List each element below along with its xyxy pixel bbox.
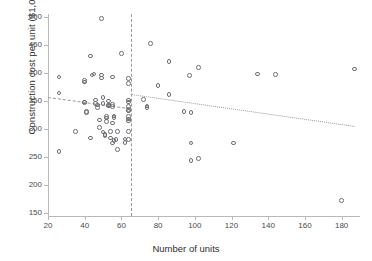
x-tick — [85, 216, 86, 220]
data-point — [126, 129, 131, 134]
data-point — [231, 141, 236, 146]
data-point — [189, 158, 194, 163]
y-tick-label: 500 — [18, 13, 42, 21]
data-point — [148, 41, 153, 46]
plot-area: 150200250300350400450500 204060801001201… — [48, 14, 360, 218]
x-tick-label: 160 — [292, 222, 318, 230]
y-tick — [44, 129, 48, 130]
data-point — [92, 72, 97, 77]
data-point — [99, 16, 104, 21]
y-tick — [44, 17, 48, 18]
trend-left — [48, 97, 131, 109]
data-point — [196, 65, 201, 70]
x-tick — [121, 216, 122, 220]
x-tick-label: 180 — [329, 222, 355, 230]
data-point — [73, 129, 78, 134]
data-point — [339, 198, 344, 203]
data-point — [82, 100, 87, 105]
trend-right — [130, 94, 354, 127]
x-axis-line — [48, 216, 360, 217]
data-point — [84, 110, 89, 115]
x-tick-label: 120 — [219, 222, 245, 230]
data-point — [196, 156, 201, 161]
x-tick — [268, 216, 269, 220]
data-point — [119, 51, 124, 56]
data-point — [97, 125, 102, 130]
data-point — [110, 121, 115, 126]
y-tick-label: 400 — [18, 69, 42, 77]
y-tick — [44, 213, 48, 214]
data-point — [103, 133, 108, 138]
y-tick-label: 200 — [18, 181, 42, 189]
data-point — [167, 59, 172, 64]
y-tick — [44, 73, 48, 74]
chart-figure: Construction cost per unit ($1,000s) 150… — [0, 0, 372, 261]
y-tick — [44, 45, 48, 46]
data-point — [108, 129, 113, 134]
data-point — [273, 72, 278, 77]
x-tick-label: 80 — [145, 222, 171, 230]
data-point — [95, 105, 100, 110]
x-tick — [158, 216, 159, 220]
data-point — [189, 141, 194, 146]
data-point — [82, 80, 87, 85]
data-point — [167, 92, 172, 97]
y-tick — [44, 157, 48, 158]
data-point — [57, 149, 62, 154]
y-axis-line — [48, 14, 49, 216]
x-tick-label: 40 — [72, 222, 98, 230]
y-tick-label: 250 — [18, 153, 42, 161]
data-point — [104, 119, 109, 124]
data-point — [115, 129, 120, 134]
data-point — [88, 136, 93, 141]
x-tick — [342, 216, 343, 220]
x-tick-label: 140 — [255, 222, 281, 230]
x-tick-label: 20 — [35, 222, 61, 230]
data-point — [187, 73, 192, 78]
data-point — [189, 110, 194, 115]
data-point — [126, 76, 131, 81]
data-point — [145, 105, 150, 110]
data-point — [255, 72, 260, 77]
data-point — [97, 118, 102, 123]
x-tick — [305, 216, 306, 220]
x-axis-label: Number of units — [0, 243, 372, 254]
x-tick-label: 60 — [108, 222, 134, 230]
data-point — [156, 83, 161, 88]
x-tick-label: 100 — [182, 222, 208, 230]
y-tick — [44, 185, 48, 186]
data-point — [352, 67, 357, 72]
data-point — [88, 54, 93, 59]
y-tick-label: 300 — [18, 125, 42, 133]
y-tick-label: 150 — [18, 209, 42, 217]
figure-title-fragment — [120, 0, 370, 7]
data-point — [182, 109, 187, 114]
y-tick-label: 450 — [18, 41, 42, 49]
data-point — [57, 75, 62, 80]
data-point — [110, 104, 115, 109]
data-point — [112, 115, 117, 120]
data-point — [126, 137, 131, 142]
data-point — [126, 81, 131, 86]
x-tick — [195, 216, 196, 220]
data-point — [101, 95, 106, 100]
data-point — [115, 147, 120, 152]
data-point — [141, 97, 146, 102]
data-point — [110, 75, 115, 80]
data-point — [114, 137, 119, 142]
x-tick — [48, 216, 49, 220]
y-tick — [44, 101, 48, 102]
data-point — [57, 91, 62, 96]
data-point — [99, 73, 104, 78]
x-tick — [232, 216, 233, 220]
y-tick-label: 350 — [18, 97, 42, 105]
